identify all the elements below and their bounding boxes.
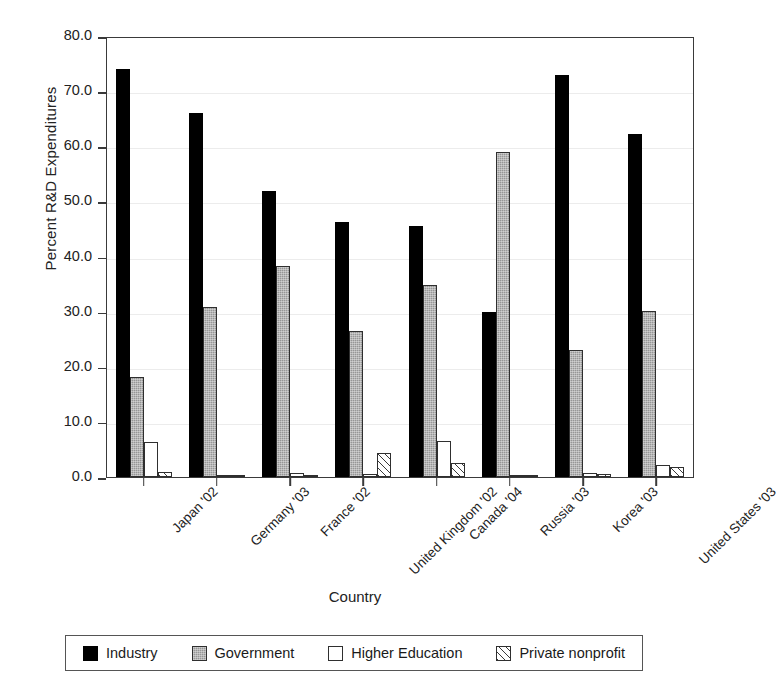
x-axis-category-label: Germany '03 [248,484,313,549]
bar-private-nonprofit[interactable] [377,453,391,477]
y-axis-tick-label: 70.0 [64,82,92,98]
bar-private-nonprofit[interactable] [524,475,538,477]
bar-group [327,38,400,477]
bar-private-nonprofit[interactable] [451,463,465,477]
bar-group [180,38,253,477]
bar-higher-education[interactable] [363,474,377,477]
legend-label: Government [215,645,295,661]
y-axis-tick-mark [98,258,106,260]
y-axis-tick-label: 60.0 [64,137,92,153]
y-axis-tick-mark [98,423,106,425]
y-axis-ticks: 0.010.020.030.040.050.060.070.080.0 [0,37,106,478]
y-axis-tick-label: 0.0 [72,468,92,484]
bar-private-nonprofit[interactable] [304,475,318,477]
bar-government[interactable] [130,377,144,477]
bar-group [254,38,327,477]
legend-swatch-icon [328,646,343,661]
bar-industry[interactable] [116,69,130,477]
bar-private-nonprofit[interactable] [670,467,684,477]
plot-area [106,37,694,478]
y-axis-tick-mark [98,92,106,94]
bar-higher-education[interactable] [437,441,451,477]
x-axis-category-label: France '02 [317,484,372,539]
bar-group [400,38,473,477]
bar-group [547,38,620,477]
legend-swatch-icon [83,646,98,661]
chart-legend: IndustryGovernmentHigher EducationPrivat… [65,635,643,671]
y-axis-tick-mark [98,147,106,149]
y-axis-tick-mark [98,313,106,315]
y-axis-tick-label: 30.0 [64,303,92,319]
y-axis-tick-label: 40.0 [64,248,92,264]
x-axis-category-labels: Japan '02Germany '03France '02United Kin… [106,484,694,580]
bar-industry[interactable] [555,75,569,477]
bar-industry[interactable] [262,191,276,477]
bar-government[interactable] [496,152,510,477]
bar-group [473,38,546,477]
bar-private-nonprofit[interactable] [597,474,611,477]
bar-group [107,38,180,477]
y-axis-tick-mark [98,478,106,480]
legend-swatch-icon [192,646,207,661]
bar-government[interactable] [423,285,437,477]
y-axis-tick-label: 80.0 [64,27,92,43]
y-axis-tick-label: 50.0 [64,192,92,208]
x-axis-category-label: Korea '03 [609,484,660,535]
x-axis-category-label: United States '03 [696,484,779,567]
bar-industry[interactable] [409,226,423,477]
bar-government[interactable] [276,266,290,477]
bar-industry[interactable] [628,134,642,477]
legend-item[interactable]: Government [192,645,295,661]
y-axis-tick-mark [98,37,106,39]
bar-higher-education[interactable] [217,475,231,477]
bar-higher-education[interactable] [510,475,524,477]
legend-swatch-icon [496,646,511,661]
bar-industry[interactable] [482,312,496,477]
bar-private-nonprofit[interactable] [231,475,245,477]
bar-government[interactable] [349,331,363,477]
bar-higher-education[interactable] [583,473,597,477]
legend-label: Private nonprofit [519,645,625,661]
legend-label: Industry [106,645,158,661]
bar-industry[interactable] [189,113,203,477]
bar-government[interactable] [642,311,656,477]
y-axis-tick-mark [98,202,106,204]
y-axis-tick-label: 20.0 [64,358,92,374]
y-axis-tick-mark [98,368,106,370]
bar-government[interactable] [569,350,583,477]
bar-private-nonprofit[interactable] [158,472,172,478]
bar-higher-education[interactable] [144,442,158,477]
legend-item[interactable]: Private nonprofit [496,645,625,661]
bar-higher-education[interactable] [656,465,670,477]
bar-group [620,38,693,477]
x-axis-category-label: Russia '03 [537,484,592,539]
bar-industry[interactable] [335,222,349,477]
legend-item[interactable]: Industry [83,645,158,661]
x-axis-title: Country [0,588,710,605]
y-axis-tick-label: 10.0 [64,413,92,429]
bar-groups [107,38,693,477]
bar-government[interactable] [203,307,217,477]
legend-item[interactable]: Higher Education [328,645,462,661]
bar-higher-education[interactable] [290,473,304,477]
legend-label: Higher Education [351,645,462,661]
x-axis-category-label: Japan '02 [169,484,221,536]
